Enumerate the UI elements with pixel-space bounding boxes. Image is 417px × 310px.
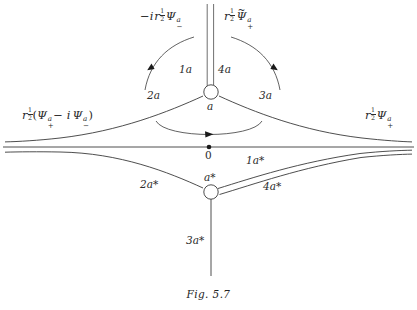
wave-label-top-left-lead: −i xyxy=(140,11,153,23)
wave-label-right-exponent: 12 xyxy=(371,107,376,121)
branch-label-2a-star: 2a* xyxy=(140,179,158,190)
wave-label-left-minus: − xyxy=(53,108,63,122)
arc-upper-right xyxy=(231,37,280,90)
branch-label-4a-star: 4a* xyxy=(263,181,281,192)
wave-label-right: r12Ψa+ xyxy=(365,110,387,124)
wave-label-top-right-exponent: 12 xyxy=(230,8,235,22)
wave-label-left-paren-close: ) xyxy=(89,108,94,122)
wave-label-top-left: −ir12Ψa− xyxy=(140,11,176,25)
origin-label: 0 xyxy=(205,150,212,161)
vertex-a-star-circle xyxy=(204,185,218,199)
wave-label-left-psi2: Ψ xyxy=(72,108,82,122)
tilde-accent: ~ xyxy=(238,6,246,15)
wave-label-left-exponent: 12 xyxy=(28,107,33,121)
branch-label-3a-star: 3a* xyxy=(186,235,204,246)
wave-label-left-i: i xyxy=(67,110,71,122)
wave-label-top-right-psi-tilde: ~Ψ xyxy=(237,11,247,23)
branch-label-4a: 4a xyxy=(218,64,231,75)
branch-label-1a: 1a xyxy=(179,64,192,75)
vertex-label-a-star: a* xyxy=(204,172,216,183)
branch-label-2a: 2a xyxy=(147,90,160,101)
wave-label-top-left-psi: Ψ xyxy=(166,9,176,23)
wave-label-right-psi: Ψ xyxy=(377,108,387,122)
branch-label-3a: 3a xyxy=(259,90,272,101)
arc-center xyxy=(156,121,262,135)
vertex-label-a: a xyxy=(207,101,213,112)
branch-label-1a-star: 1a* xyxy=(246,155,264,166)
wave-label-top-right: r12~Ψa+ xyxy=(224,11,247,25)
wave-label-left-psi1: Ψ xyxy=(37,108,47,122)
vertex-a-circle xyxy=(204,85,218,99)
figure-root: .ln{fill:none;stroke:#3a3a3a;stroke-widt… xyxy=(0,0,417,310)
wave-label-top-left-exponent: 12 xyxy=(160,8,165,22)
arc-center-arrowhead xyxy=(205,131,214,137)
figure-caption: Fig. 5.7 xyxy=(0,288,417,300)
wave-label-left: r12(Ψa+−iΨa−) xyxy=(22,110,93,124)
branch-curve-2a-star xyxy=(5,152,203,188)
